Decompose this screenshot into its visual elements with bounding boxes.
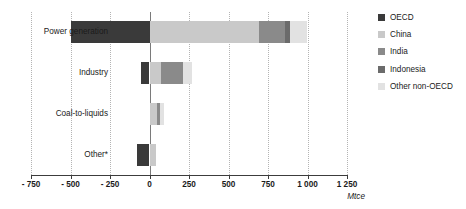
x-tick bbox=[229, 175, 230, 179]
legend-label: OECD bbox=[390, 13, 414, 22]
legend-swatch-icon bbox=[378, 31, 385, 38]
x-tick-label: 1 000 bbox=[286, 180, 330, 190]
x-tick-label: - 750 bbox=[9, 180, 53, 190]
category-label: Coal-to-liquids bbox=[0, 109, 108, 119]
legend-label: Indonesia bbox=[390, 65, 426, 74]
legend-swatch-icon bbox=[378, 48, 385, 55]
category-label: Power generation bbox=[0, 27, 108, 37]
axis-unit-label: Mtce bbox=[347, 192, 365, 201]
x-tick-label: - 500 bbox=[49, 180, 93, 190]
x-tick-label: 750 bbox=[246, 180, 290, 190]
x-tick-label: 1 250 bbox=[325, 180, 369, 190]
bar-segment bbox=[150, 103, 158, 125]
legend-label: China bbox=[390, 30, 411, 39]
legend-swatch-icon bbox=[378, 83, 385, 90]
bar-segment bbox=[161, 62, 182, 84]
legend-label: India bbox=[390, 47, 408, 56]
bar-segment bbox=[150, 21, 259, 43]
x-tick-label: 500 bbox=[207, 180, 251, 190]
category-label: Other* bbox=[0, 150, 108, 160]
category-label: Industry bbox=[0, 68, 108, 78]
x-tick bbox=[110, 175, 111, 179]
bar-segment bbox=[183, 62, 192, 84]
bar-segment bbox=[290, 21, 307, 43]
bar-segment bbox=[141, 62, 150, 84]
x-tick bbox=[308, 175, 309, 179]
x-tick bbox=[31, 175, 32, 179]
bar-segment bbox=[150, 62, 162, 84]
x-tick bbox=[268, 175, 269, 179]
bar-segment bbox=[150, 144, 156, 166]
legend-swatch-icon bbox=[378, 14, 385, 21]
x-tick-label: 250 bbox=[167, 180, 211, 190]
legend-item: OECD bbox=[378, 9, 466, 26]
legend-item: Indonesia bbox=[378, 61, 466, 78]
legend-swatch-icon bbox=[378, 66, 385, 73]
bar-segment bbox=[259, 21, 286, 43]
x-tick-label: 0 bbox=[128, 180, 172, 190]
legend-item: Other non-OECD bbox=[378, 78, 466, 95]
legend-label: Other non-OECD bbox=[390, 82, 453, 91]
bar-segment bbox=[160, 103, 164, 125]
bar-segment bbox=[137, 144, 150, 166]
x-tick bbox=[347, 175, 348, 179]
legend-item: India bbox=[378, 43, 466, 60]
legend: OECDChinaIndiaIndonesiaOther non-OECD bbox=[378, 9, 466, 95]
gridline bbox=[347, 12, 348, 175]
x-tick bbox=[150, 175, 151, 179]
stacked-bar-chart: Power generationIndustryCoal-to-liquidsO… bbox=[0, 0, 466, 209]
x-tick bbox=[71, 175, 72, 179]
x-tick bbox=[189, 175, 190, 179]
legend-item: China bbox=[378, 26, 466, 43]
x-tick-label: - 250 bbox=[88, 180, 132, 190]
